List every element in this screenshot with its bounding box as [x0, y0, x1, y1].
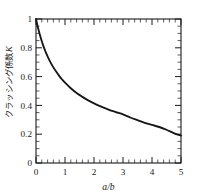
chart-figure: 0 1 2 3 4 5 0 0.2 0.4 0.6 0.8 1 a/b クラッシ…	[0, 0, 197, 196]
x-axis-title: a/b	[102, 181, 114, 192]
y-tick-label-3: 0.6	[21, 72, 33, 82]
y-axis-tick-labels: 0 0.2 0.4 0.6 0.8 1	[21, 14, 33, 168]
y-tick-label-4: 0.8	[21, 43, 33, 53]
y-tick-label-0: 0	[27, 158, 32, 168]
x-tick-label-0: 0	[34, 167, 39, 177]
x-axis-tick-labels: 0 1 2 3 4 5	[34, 167, 184, 177]
x-tick-label-5: 5	[179, 167, 184, 177]
line-chart-plot: 0 1 2 3 4 5 0 0.2 0.4 0.6 0.8 1 a/b	[0, 0, 197, 196]
plot-area-background	[36, 19, 181, 163]
x-tick-label-1: 1	[63, 167, 68, 177]
x-tick-label-3: 3	[121, 167, 126, 177]
x-tick-label-2: 2	[92, 167, 97, 177]
y-tick-label-2: 0.4	[21, 101, 33, 111]
y-tick-label-5: 1	[27, 14, 32, 24]
y-tick-label-1: 0.2	[21, 129, 33, 139]
x-tick-label-4: 4	[150, 167, 155, 177]
